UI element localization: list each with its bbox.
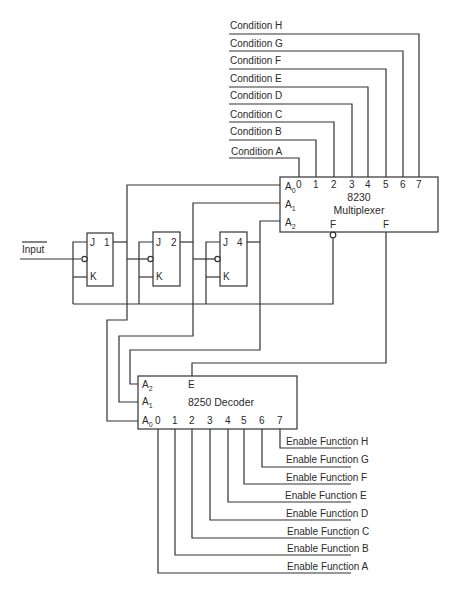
ff1-j-wire xyxy=(73,242,87,304)
mux-input-1: 1 xyxy=(313,179,319,190)
function-labels: Enable Function H Enable Function G Enab… xyxy=(285,436,369,572)
clock-bubble xyxy=(82,256,87,261)
condition-labels: Condition H Condition G Condition F Cond… xyxy=(230,20,283,157)
flipflop-3: J K 4 xyxy=(215,232,247,286)
clock-bubble xyxy=(148,256,153,261)
q2-a1-wire xyxy=(119,203,280,402)
dec-output-4: 4 xyxy=(225,415,231,426)
ff2-k-label: K xyxy=(156,271,163,282)
ff3-q-label: 4 xyxy=(237,237,243,248)
circuit-diagram: Condition H Condition G Condition F Cond… xyxy=(0,0,457,589)
ff1-k-label: K xyxy=(90,271,97,282)
mux-input-6: 6 xyxy=(400,179,406,190)
dec-output-2: 2 xyxy=(189,415,195,426)
mux-input-3: 3 xyxy=(349,179,355,190)
function-g-label: Enable Function G xyxy=(286,454,369,465)
ff2-q-label: 2 xyxy=(171,237,177,248)
function-d-label: Enable Function D xyxy=(286,508,368,519)
decoder-title: 8250 Decoder xyxy=(188,396,254,408)
ff3-j-wire xyxy=(206,242,220,304)
function-e-label: Enable Function E xyxy=(285,490,367,501)
dec-output-5: 5 xyxy=(241,415,247,426)
ff3-k-label: K xyxy=(223,271,230,282)
condition-b-label: Condition B xyxy=(230,126,282,137)
inverted-output-bubble xyxy=(330,232,336,238)
ff3-j-label: J xyxy=(223,237,228,248)
dec-output-3: 3 xyxy=(207,415,213,426)
mux-part-number: 8230 xyxy=(347,191,371,203)
ff1-j-label: J xyxy=(90,237,95,248)
flipflop-2: J K 2 xyxy=(148,232,180,286)
condition-d-label: Condition D xyxy=(230,90,282,101)
function-f-label: Enable Function F xyxy=(286,472,367,483)
input-label: Input xyxy=(22,244,44,255)
ff2-j-wire xyxy=(139,242,153,304)
mux-output-f-inverted-label: F xyxy=(330,219,336,230)
mux-input-4: 4 xyxy=(365,179,371,190)
dec-output-6: 6 xyxy=(259,415,265,426)
function-a-label: Enable Function A xyxy=(287,561,368,572)
function-c-label: Enable Function C xyxy=(287,526,369,537)
condition-c-label: Condition C xyxy=(230,109,282,120)
dec-output-0: 0 xyxy=(155,415,161,426)
condition-h-label: Condition H xyxy=(230,20,282,31)
condition-a-label: Condition A xyxy=(231,146,282,157)
input-signal: Input xyxy=(20,242,81,259)
condition-e-label: Condition E xyxy=(230,73,282,84)
condition-f-label: Condition F xyxy=(230,55,281,66)
multiplexer-8230: A0 A1 A2 0 1 2 3 4 5 6 7 8230 Multiplexe… xyxy=(280,177,438,238)
mux-input-5: 5 xyxy=(383,179,389,190)
mux-input-7: 7 xyxy=(416,179,422,190)
dec-enable-label: E xyxy=(188,379,195,390)
mux-input-0: 0 xyxy=(296,179,302,190)
function-h-label: Enable Function H xyxy=(286,436,368,447)
condition-g-label: Condition G xyxy=(230,38,283,49)
dec-output-7: 7 xyxy=(277,415,283,426)
mux-input-2: 2 xyxy=(331,179,337,190)
condition-f-wire xyxy=(229,69,386,177)
ff2-j-label: J xyxy=(156,237,161,248)
flipflop-1: J K 1 xyxy=(82,233,113,286)
condition-a-wire xyxy=(229,158,299,177)
function-b-label: Enable Function B xyxy=(287,543,369,554)
dec-output-1: 1 xyxy=(172,415,178,426)
ff1-q-label: 1 xyxy=(104,237,110,248)
mux-output-f-label: F xyxy=(383,219,389,230)
decoder-8250: A2 A1 A0 E 8250 Decoder 0 1 2 3 4 5 6 7 xyxy=(138,376,297,429)
mux-name: Multiplexer xyxy=(334,204,385,216)
clock-bubble xyxy=(215,256,220,261)
